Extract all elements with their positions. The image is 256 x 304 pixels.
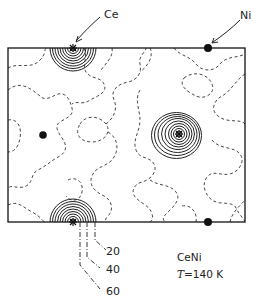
contour-label-60: 60 [106,285,120,298]
temperature-label: T=140 K [177,268,223,280]
contour-label-20: 20 [106,245,120,258]
leader-60 [80,222,100,289]
contour-leaders [80,222,106,289]
ce-arrow [77,17,100,40]
label-arrows [76,17,240,43]
ce-star-icon [69,218,77,226]
ce-star-icon [175,130,183,138]
ni-arrow [213,20,240,42]
ni-dot-icon [204,218,212,226]
density-map [0,0,256,304]
ce-contours-center [152,113,202,159]
ni-dot-icon [39,131,47,139]
ni-atom-markers [39,44,212,226]
ce-star-icon [69,44,77,52]
ni-label: Ni [240,9,251,22]
contour-label-40: 40 [106,263,120,276]
temperature-symbol: T [177,268,184,280]
ce-atom-markers [69,44,183,226]
leader-20 [95,222,106,250]
ni-dot-icon [204,44,212,52]
ce-label: Ce [104,8,118,21]
leader-40 [87,222,100,268]
temperature-value: =140 K [184,268,223,280]
compound-label: CeNi [177,251,202,263]
